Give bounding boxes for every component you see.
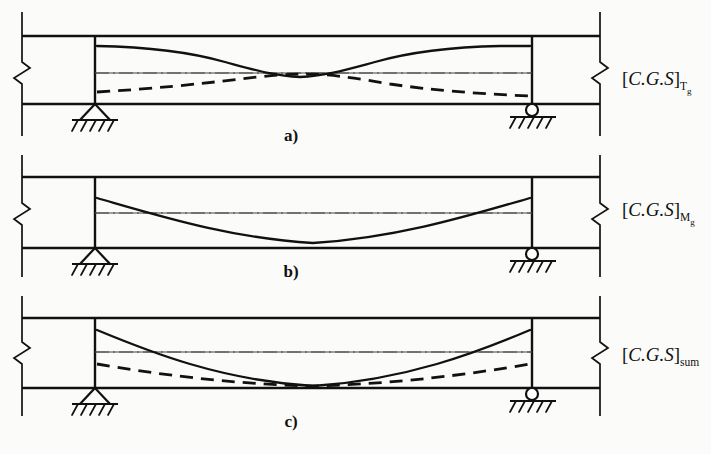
panel-caption-c: c) — [284, 412, 297, 431]
panel-caption-b: b) — [283, 262, 298, 281]
panel-caption-a: a) — [284, 126, 298, 145]
figure-root: .heavy{stroke:#111;stroke-width:2.6;fill… — [0, 0, 711, 454]
structural-diagram: .heavy{stroke:#111;stroke-width:2.6;fill… — [0, 0, 711, 454]
